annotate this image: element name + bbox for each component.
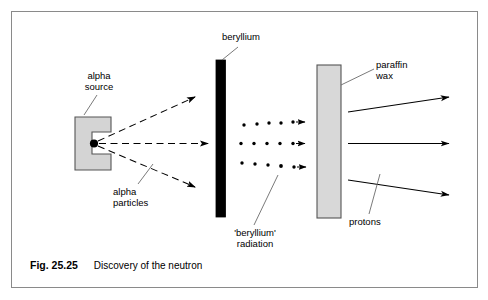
beryllium-radiation-row-top: [242, 120, 305, 126]
beryllium-radiation-row-bottom: [240, 161, 306, 168]
figure-root: alpha source alpha particles beryllium '…: [0, 0, 488, 300]
label-alpha-particles: alpha particles: [113, 186, 183, 208]
beryllium-bar: [216, 60, 226, 217]
beryllium-radiation-row-middle: [239, 142, 305, 145]
leader-beryllium: [222, 47, 238, 60]
label-paraffin-wax: paraffin wax: [376, 59, 438, 81]
alpha-particle-rays: [98, 97, 208, 187]
leader-paraffin-wax: [341, 69, 374, 85]
label-beryllium: beryllium: [209, 31, 273, 42]
figure-frame-border: alpha source alpha particles beryllium '…: [11, 11, 478, 288]
label-protons: protons: [349, 216, 409, 227]
paraffin-wax-block: [317, 65, 341, 218]
proton-arrow-down: [348, 180, 449, 195]
leader-alpha-source: [84, 95, 97, 115]
proton-arrow-up: [348, 97, 449, 112]
leader-protons: [369, 174, 380, 214]
alpha-source-point: [90, 139, 98, 147]
figure-number: Fig. 25.25: [30, 259, 78, 271]
leader-beryllium-radiation: [254, 175, 278, 225]
beryllium-radiation-rows: [239, 120, 306, 168]
figure-caption: Fig. 25.25 Discovery of the neutron: [30, 259, 202, 271]
alpha-ray-down: [98, 146, 195, 187]
figure-caption-title: Discovery of the neutron: [94, 260, 202, 271]
leader-alpha-particles: [138, 164, 153, 184]
label-alpha-source: alpha source: [69, 70, 129, 92]
alpha-ray-up: [98, 97, 195, 141]
proton-arrows: [348, 97, 449, 195]
label-beryllium-radiation: 'beryllium' radiation: [218, 227, 292, 249]
